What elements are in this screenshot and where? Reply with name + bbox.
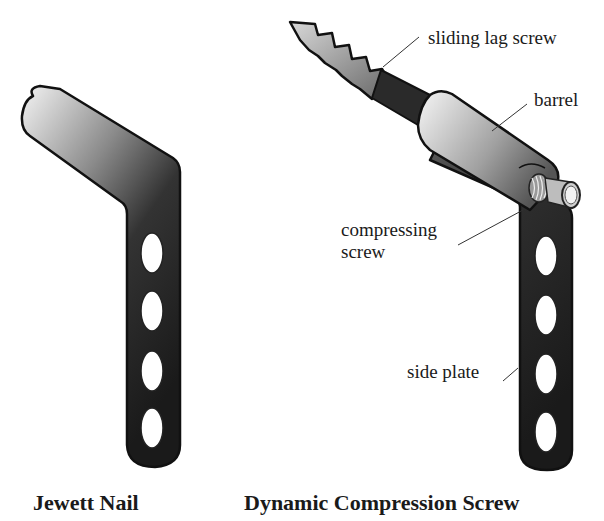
jewett-nail xyxy=(22,86,180,467)
leader-lag-screw xyxy=(383,37,419,67)
orthopedic-devices-diagram: sliding lag screw barrel compressing scr… xyxy=(0,0,604,521)
screw-hole xyxy=(535,236,557,276)
label-sliding-lag-screw: sliding lag screw xyxy=(428,27,557,48)
screw-hole xyxy=(535,412,557,452)
sliding-lag-screw xyxy=(290,22,430,125)
screw-hole xyxy=(535,354,557,394)
screw-hole xyxy=(141,233,163,273)
label-side-plate: side plate xyxy=(407,361,479,382)
label-compressing-screw-line1: compressing xyxy=(341,219,438,240)
leader-barrel xyxy=(492,104,527,131)
leader-side-plate xyxy=(503,368,518,381)
dynamic-compression-screw: sliding lag screw barrel compressing scr… xyxy=(290,22,580,470)
screw-hole xyxy=(141,408,163,448)
caption-jewett-nail: Jewett Nail xyxy=(33,490,139,515)
screw-hole xyxy=(141,351,163,391)
label-compressing-screw-line2: screw xyxy=(341,241,386,262)
label-barrel: barrel xyxy=(534,89,578,110)
screw-hole xyxy=(141,291,163,331)
caption-dynamic-compression-screw: Dynamic Compression Screw xyxy=(244,490,520,515)
leader-compressing-screw xyxy=(458,210,523,245)
screw-hole xyxy=(535,295,557,335)
